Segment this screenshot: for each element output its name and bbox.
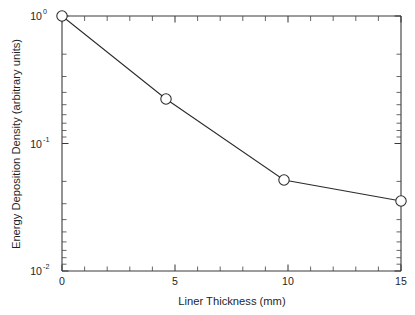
chart-figure: 0 5 10 15 10 0 10 -1 10 -2 Liner Thickne…	[0, 0, 415, 315]
data-point-marker	[279, 175, 289, 185]
y-tick-label-exponent: -2	[43, 262, 49, 271]
x-tick-label: 0	[59, 275, 65, 287]
x-tick-label: 10	[282, 275, 294, 287]
y-tick-label-base: 10	[30, 10, 42, 22]
y-axis-title: Energy Deposition Density (arbitrary uni…	[10, 39, 22, 249]
x-axis-title: Liner Thickness (mm)	[178, 295, 286, 307]
y-tick-label-exponent: 0	[43, 7, 47, 16]
y-tick-label-base: 10	[30, 265, 42, 277]
y-tick-label-base: 10	[30, 138, 42, 150]
data-point-marker	[57, 11, 67, 21]
energy-deposition-line-chart: 0 5 10 15 10 0 10 -1 10 -2 Liner Thickne…	[0, 0, 415, 315]
data-point-marker	[161, 94, 171, 104]
x-tick-label: 15	[395, 275, 407, 287]
x-tick-label: 5	[172, 275, 178, 287]
data-point-marker	[396, 196, 406, 206]
y-tick-label-exponent: -1	[43, 135, 49, 144]
